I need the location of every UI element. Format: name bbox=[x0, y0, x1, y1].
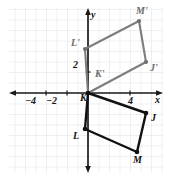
vertex-label-L-prime: L' bbox=[71, 38, 80, 48]
x-tick-label-neg4: −4 bbox=[25, 96, 36, 106]
y-tick-label-2: 2 bbox=[73, 60, 78, 70]
vertex-label-M-prime: M' bbox=[136, 6, 148, 16]
vertex-label-M: M bbox=[133, 155, 142, 165]
x-tick-label-neg2: −2 bbox=[46, 96, 57, 106]
grid-lines bbox=[9, 8, 163, 173]
x-axis-label: x bbox=[155, 95, 160, 105]
y-axis-label: y bbox=[91, 10, 95, 20]
coordinate-graph-figure: x y −4 −2 4 2 M' L' J' K' K J L M bbox=[0, 0, 172, 181]
vertex-label-K: K bbox=[80, 93, 87, 103]
vertex-label-L: L bbox=[73, 131, 79, 141]
vertex-label-J-prime: J' bbox=[150, 63, 158, 73]
graph-canvas bbox=[0, 0, 172, 181]
vertex-label-K-prime: K' bbox=[95, 69, 104, 79]
x-tick-label-4: 4 bbox=[128, 96, 133, 106]
vertex-label-J: J bbox=[151, 113, 156, 123]
